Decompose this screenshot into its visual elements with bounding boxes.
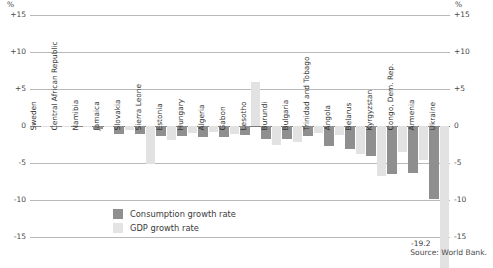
category-label: Algeria — [197, 104, 204, 130]
bar-group: Central African Republic — [51, 15, 72, 237]
axis-tick-left-+10: +10 — [10, 48, 26, 56]
category-label: Namibia — [71, 100, 78, 131]
axis-tick-right-+5: +5 — [454, 85, 465, 93]
category-label: Jamaica — [92, 101, 99, 130]
axis-tick-right-+10: +10 — [454, 48, 470, 56]
category-label: Kyrgyzstan — [365, 90, 372, 131]
plot-area: +15+15+10+10+5+500-5-5-10-10-15-15Sweden… — [30, 15, 450, 237]
bar-group: Burundi — [261, 15, 282, 237]
bar-group: Sweden — [30, 15, 51, 237]
bar-gdp-armenia — [419, 126, 429, 160]
bar-group: Algeria — [198, 15, 219, 237]
value-annotation-ukraine-gdp: -19.2 — [411, 239, 430, 248]
category-label: Belarus — [344, 103, 351, 131]
bar-group: Kyrgyzstan — [366, 15, 387, 237]
category-label: Sweden — [29, 101, 36, 130]
source-note: Source: World Bank. — [410, 248, 487, 257]
bar-group: Hungary — [177, 15, 198, 237]
bar-group: Estonia — [156, 15, 177, 237]
legend-label-consumption: Consumption growth rate — [130, 209, 236, 219]
category-label: Burundi — [260, 102, 267, 131]
axis-tick-left--10: -10 — [14, 196, 26, 204]
category-label: Bulgaria — [281, 100, 288, 131]
legend-swatch-gdp — [113, 223, 123, 233]
gridline--15 — [30, 237, 450, 238]
axis-tick-right-0: 0 — [454, 122, 459, 130]
axis-tick-left--15: -15 — [14, 233, 26, 241]
legend-swatch-consumption — [113, 209, 123, 219]
bar-group: Jamaica — [93, 15, 114, 237]
bar-gdp-sierra-leone — [146, 126, 156, 164]
category-label: Lesotho — [239, 101, 246, 130]
category-label: Trinidad and Tobago — [302, 56, 309, 130]
category-label: Sierra Leone — [134, 84, 141, 130]
chart-legend: Consumption growth rate GDP growth rate — [113, 207, 236, 235]
bar-gdp-ukraine — [440, 126, 450, 268]
legend-item-gdp: GDP growth rate — [113, 221, 236, 235]
axis-tick-left-0: 0 — [21, 122, 26, 130]
category-label: Hungary — [176, 99, 183, 131]
bar-group: Trinidad and Tobago — [303, 15, 324, 237]
bar-group: Belarus — [345, 15, 366, 237]
bar-group: Ukraine — [429, 15, 450, 237]
category-label: Angola — [323, 105, 330, 131]
bar-consumption-ukraine — [429, 126, 439, 199]
category-label: Ukraine — [428, 102, 435, 131]
bar-group: Congo, Dem. Rep. — [387, 15, 408, 237]
category-label: Armenia — [407, 99, 414, 130]
bar-consumption-congo-dem-rep- — [387, 126, 397, 174]
axis-tick-right-+15: +15 — [454, 11, 470, 19]
bar-group: Sierra Leone — [135, 15, 156, 237]
bar-group: Gabon — [219, 15, 240, 237]
bar-group: Bulgaria — [282, 15, 303, 237]
legend-label-gdp: GDP growth rate — [130, 223, 199, 233]
bar-consumption-kyrgyzstan — [366, 126, 376, 156]
category-label: Gabon — [218, 106, 225, 130]
category-label: Slovakia — [113, 99, 120, 130]
legend-item-consumption: Consumption growth rate — [113, 207, 236, 221]
axis-unit-right: % — [455, 0, 462, 9]
axis-tick-left--5: -5 — [19, 159, 26, 167]
category-label: Estonia — [155, 103, 162, 130]
category-label: Congo, Dem. Rep. — [386, 64, 393, 131]
axis-tick-left-+15: +15 — [10, 11, 26, 19]
bar-gdp-kyrgyzstan — [377, 126, 387, 176]
bar-group: Angola — [324, 15, 345, 237]
bar-group: Lesotho — [240, 15, 261, 237]
bar-group: Namibia — [72, 15, 93, 237]
axis-tick-right--10: -10 — [454, 196, 466, 204]
category-label: Central African Republic — [50, 41, 57, 130]
axis-unit-left: % — [7, 0, 14, 9]
axis-tick-right--15: -15 — [454, 233, 466, 241]
axis-tick-right--5: -5 — [454, 159, 461, 167]
bar-group: Slovakia — [114, 15, 135, 237]
bar-consumption-armenia — [408, 126, 418, 173]
bar-group: Armenia — [408, 15, 429, 237]
axis-tick-left-+5: +5 — [15, 85, 26, 93]
